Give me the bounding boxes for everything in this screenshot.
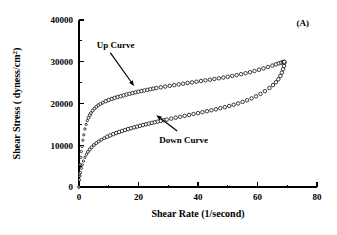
data-point	[192, 112, 196, 116]
data-point	[271, 64, 275, 68]
data-point	[268, 86, 272, 90]
data-point	[239, 72, 243, 76]
y-tick-label-30000: 30000	[51, 57, 74, 67]
minor-ticks	[79, 41, 287, 187]
y-tick-label-10000: 10000	[51, 141, 74, 151]
data-point	[85, 123, 87, 125]
x-axis-title: Shear Rate (1/second)	[151, 208, 244, 220]
y-axis-title: Shear Stress ( dyness/cm2)	[11, 48, 24, 160]
y-tick-label-20000: 20000	[51, 99, 74, 109]
data-point	[214, 108, 218, 112]
data-point	[178, 115, 182, 119]
data-point	[177, 83, 181, 87]
x-tick-labels: 020406080	[77, 192, 322, 202]
data-point	[168, 84, 172, 88]
data-point	[174, 116, 178, 120]
data-point	[159, 86, 163, 90]
data-point	[226, 75, 230, 79]
data-point	[195, 80, 199, 84]
data-point	[201, 110, 205, 114]
data-point	[277, 78, 281, 82]
series-down-curve	[78, 60, 286, 188]
data-point	[79, 171, 81, 173]
x-tick-label-0: 0	[77, 192, 82, 202]
data-point	[236, 102, 240, 106]
down-curve-annotation-text: Down Curve	[159, 135, 208, 145]
data-point	[155, 86, 159, 90]
x-tick-label-60: 60	[253, 192, 263, 202]
data-point	[279, 74, 283, 78]
data-point	[245, 98, 249, 102]
shear-stress-vs-shear-rate-chart: 020406080 010000200003000040000 Up Curve…	[0, 0, 337, 235]
data-point	[244, 71, 248, 75]
data-point	[196, 111, 200, 115]
data-point	[80, 156, 82, 158]
data-point	[227, 104, 231, 108]
data-point	[208, 78, 212, 82]
data-point	[253, 69, 257, 73]
data-point	[235, 73, 239, 77]
data-point	[187, 113, 191, 117]
data-point	[210, 109, 214, 113]
data-point	[172, 83, 176, 87]
data-point	[248, 70, 252, 74]
data-point	[186, 81, 190, 85]
data-point	[80, 167, 82, 169]
data-point	[263, 89, 267, 93]
up-curve-annotation-text: Up Curve	[97, 40, 135, 50]
figure-panel-a: 020406080 010000200003000040000 Up Curve…	[0, 0, 337, 235]
data-point	[254, 95, 258, 99]
data-point	[90, 146, 93, 149]
data-point	[271, 83, 275, 87]
series-up-curve	[78, 60, 286, 188]
data-point	[204, 79, 208, 83]
data-point	[79, 175, 81, 177]
down-curve-annotation-arrow-line	[161, 119, 177, 132]
data-point	[85, 153, 87, 155]
data-point	[205, 109, 209, 113]
data-point	[80, 150, 82, 152]
data-point	[199, 79, 203, 83]
data-point	[230, 74, 234, 78]
data-point	[84, 128, 86, 130]
x-tick-label-40: 40	[194, 192, 204, 202]
data-point	[190, 81, 194, 85]
data-point	[86, 119, 88, 121]
data-series	[78, 60, 286, 188]
data-point	[281, 68, 285, 72]
up-curve-annotation-arrow-head	[129, 80, 134, 86]
y-tick-label-0: 0	[69, 182, 74, 192]
data-point	[81, 145, 83, 147]
x-tick-label-80: 80	[313, 192, 323, 202]
data-point	[183, 114, 187, 118]
data-point	[82, 160, 84, 162]
up-curve-annotation-arrow-line	[110, 53, 131, 82]
data-point	[262, 67, 266, 71]
curve-annotations: Up CurveDown Curve	[97, 40, 208, 145]
data-point	[223, 105, 227, 109]
data-point	[217, 77, 221, 81]
data-point	[83, 134, 85, 136]
data-point	[84, 156, 86, 158]
data-point	[259, 92, 263, 96]
data-point	[78, 179, 80, 181]
up-curve-annotation: Up Curve	[97, 40, 135, 86]
data-point	[219, 106, 223, 110]
y-tick-labels: 010000200003000040000	[51, 15, 74, 192]
data-point	[82, 139, 84, 141]
x-tick-label-20: 20	[134, 192, 144, 202]
data-point	[100, 138, 103, 141]
data-point	[78, 186, 80, 188]
data-point	[266, 65, 270, 69]
data-point	[250, 97, 254, 101]
data-point	[222, 76, 226, 80]
data-point	[283, 60, 287, 64]
data-point	[257, 68, 261, 72]
panel-label: (A)	[297, 18, 310, 28]
y-tick-label-40000: 40000	[51, 15, 74, 25]
data-point	[213, 77, 217, 81]
data-point	[181, 82, 185, 86]
data-point	[232, 103, 236, 107]
data-point	[81, 164, 83, 166]
data-point	[241, 100, 245, 104]
